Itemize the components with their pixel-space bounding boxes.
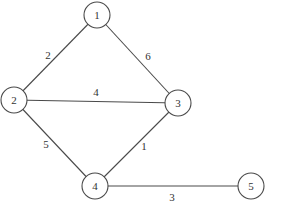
edge-weight-label-3-4: 1 (141, 140, 147, 152)
node-1: 1 (84, 2, 110, 28)
node-label-2: 2 (11, 94, 17, 106)
edge-2-4 (14, 100, 95, 186)
node-label-3: 3 (175, 97, 181, 109)
edge-weight-label-4-5: 3 (169, 191, 175, 203)
edge-weight-label-1-3: 6 (145, 50, 151, 62)
edge-3-4 (95, 103, 178, 186)
node-3: 3 (165, 90, 191, 116)
node-label-5: 5 (248, 180, 254, 192)
edge-2-3 (14, 100, 178, 103)
weighted-graph-diagram: 264513 12345 (0, 0, 290, 206)
node-2: 2 (1, 87, 27, 113)
edge-1-3 (97, 15, 178, 103)
edge-1-2 (14, 15, 97, 100)
edge-weight-label-2-3: 4 (93, 86, 99, 98)
edges-layer (14, 15, 251, 186)
node-5: 5 (238, 173, 264, 199)
edge-weight-label-1-2: 2 (45, 49, 51, 61)
node-label-1: 1 (94, 9, 100, 21)
node-label-4: 4 (92, 180, 98, 192)
node-4: 4 (82, 173, 108, 199)
edge-weight-label-2-4: 5 (43, 138, 49, 150)
